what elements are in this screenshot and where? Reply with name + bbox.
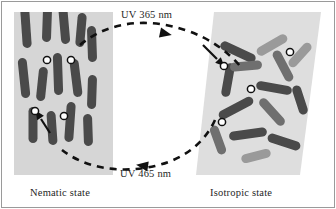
azobenzene-junction-marker (220, 62, 227, 69)
azobenzene-junction-marker (43, 56, 50, 63)
caption-isotropic-state: Isotropic state (210, 187, 272, 198)
panel-nematic (14, 0, 113, 175)
uv-forward-label: UV 365 nm (121, 9, 172, 20)
azobenzene-junction-marker (60, 112, 67, 119)
mesogen-rod-nematic (87, 75, 97, 109)
mesogen-rod-nematic (87, 26, 97, 62)
mesogen-rod-nematic (83, 114, 93, 146)
uv-reverse-label: UV 465 nm (120, 168, 171, 179)
azobenzene-junction-marker (286, 48, 293, 55)
azobenzene-junction-marker (31, 107, 38, 114)
azobenzene-junction-marker (247, 85, 254, 92)
mesogen-rod-nematic (53, 53, 63, 95)
caption-nematic-state: Nematic state (30, 187, 90, 198)
azobenzene-junction-marker (67, 56, 74, 63)
panel-isotropic (196, 12, 321, 175)
azobenzene-junction-marker (218, 118, 225, 125)
